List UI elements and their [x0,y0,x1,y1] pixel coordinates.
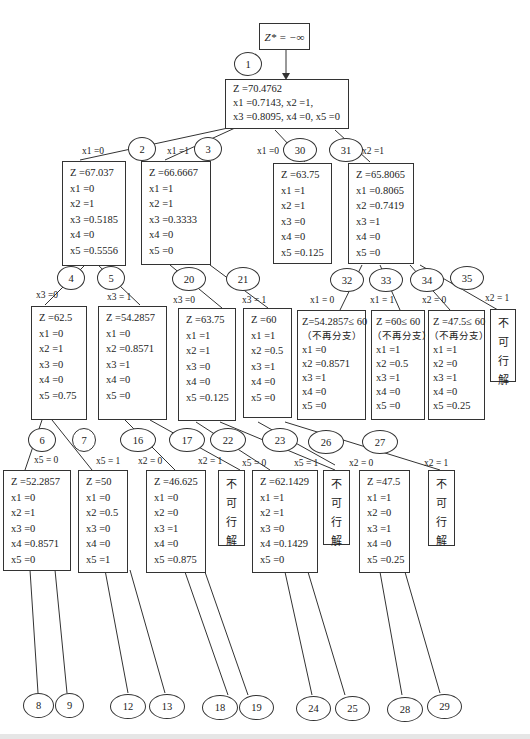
subproblem-box-16: Z =46.625 x1 =0 x2 =0 x3 =1 x4 =0 x5 =0.… [146,470,206,573]
node-30: 30 [283,138,317,162]
box-line: x2 =1 [39,341,86,357]
node-label: 21 [238,274,249,285]
box-line: Z =62.5 [39,310,86,326]
edge-label-6: x5 = 0 [34,455,58,465]
box-line: x5 =0.125 [281,245,331,261]
box-line: x2 =0.5 [251,343,291,359]
edge-label-23: x5 = 1 [294,458,318,468]
box-line: x5 =0.75 [39,388,86,404]
subproblem-box-30: Z =63.75 x1 =1 x2 =1 x3 =0 x4 =0 x5 =0.1… [273,163,332,264]
node-27: 27 [362,430,398,454]
box-line: x5 =0 [260,552,317,568]
node-label: 5 [108,273,113,284]
box-line: x3 =1 [251,359,291,375]
edge-label-20: x3 =0 [173,295,195,305]
box-line: x4 =0 [281,229,331,245]
box-line: x4 =0 [302,385,365,399]
subproblem-box-7: Z =50 x1 =0 x2 =0.5 x3 =0 x4 =0 x5 =1 [78,470,128,573]
box-line: x1 =0 [39,326,86,342]
box-line: x5 =0 [106,388,166,404]
box-line: Z =63.75 [281,167,331,183]
edge-label-34: x2 = 0 [422,295,446,305]
box-line: x4 =0 [39,372,86,388]
box-line: Z =63.75 [186,312,235,328]
box-line: x4 =0 [356,229,413,245]
node-label: 35 [462,273,473,284]
subproblem-box-26: Z =47.5 x1 =1 x2 =0 x3 =1 x4 =0 x5 =0.25 [359,470,410,573]
edge-label-5: x3 = 1 [107,292,131,302]
node-label: 4 [68,273,73,284]
root-line: x1 =0.7143, x2 =1, [233,96,348,110]
node-label: 20 [184,274,195,285]
box-line: x3 =0 [86,521,127,537]
infeasible-char: 解 [429,532,454,551]
box-line: x3 =0.3333 [149,212,210,228]
infeasible-char: 不 [429,475,454,494]
infeasible-char: 可 [429,494,454,513]
node-24: 24 [296,696,331,721]
edge-label-27: x2 = 1 [424,458,448,468]
box-line: x4 =0 [106,372,166,388]
box-line: x2 =0 [154,505,205,521]
box-line: x4 =0.1429 [260,536,317,552]
node-2: 2 [128,137,156,161]
subproblem-box-34: Z =47.5≤ 60 （不再分支） x1 =1 x2 =0 x3 =1 x4 … [428,310,485,420]
box-line: x3 =1 [356,214,413,230]
edge-label-21: x3 = 1 [242,295,266,305]
infeasible-char: 可 [324,494,349,513]
box-line: x2 =0.8571 [106,341,166,357]
box-line: Z =47.5 [367,474,409,490]
infeasible-char: 解 [219,532,244,551]
box-line: x5 =0 [149,243,210,259]
box-line: x4 =0 [251,374,291,390]
incumbent-value: Z* = −∞ [265,31,305,43]
box-line: x1 =0 [106,326,166,342]
box-line: Z =52.2857 [11,474,70,490]
box-line: x3 =1 [367,521,409,537]
node-label: 12 [123,701,134,712]
node-label: 1 [245,59,250,70]
box-line: x1 =0 [11,490,70,506]
infeasible-char: 不 [219,475,244,494]
node-34: 34 [410,268,444,292]
box-line: x4 =0 [86,536,127,552]
box-line: x2 =1 [149,196,210,212]
edge-label-22: x5 = 0 [242,458,266,468]
branch-and-bound-diagram: Z* = −∞ Z =70.4762 x1 =0.7143, x2 =1, x3… [0,0,530,739]
node-label: 30 [295,145,306,156]
edge-label-7: x5 = 1 [96,456,120,466]
box-line: x4 =0 [433,385,484,399]
node-1: 1 [234,52,262,76]
box-line: x1 =1 [149,181,210,197]
root-line: Z =70.4762 [233,82,348,96]
box-line: x2 =0.7419 [356,198,413,214]
root-box: Z =70.4762 x1 =0.7143, x2 =1, x3 =0.8095… [225,79,349,129]
node-13: 13 [149,694,185,719]
box-line: x5 =0.25 [433,399,484,413]
node-label: 26 [321,437,332,448]
node-label: 28 [400,704,411,715]
box-line: Z =62.1429 [260,474,317,490]
box-line: x5 =0 [376,399,424,413]
infeasible-char: 行 [324,513,349,532]
edge-label-2: x1 =0 [82,146,104,156]
node-label: 32 [342,275,353,286]
box-line: x2 =1 [70,196,125,212]
box-line: （不再分支） [302,329,365,343]
node-5: 5 [97,266,125,290]
box-line: x3 =0 [39,357,86,373]
node-label: 24 [308,703,319,714]
node-label: 6 [39,435,44,446]
box-line: x4 =0 [367,536,409,552]
node-28: 28 [387,697,423,722]
node-label: 8 [36,700,41,711]
node-label: 22 [223,435,234,446]
box-line: Z =47.5≤ 60 [433,315,484,329]
edge-label-17: x2 = 1 [198,456,222,466]
subproblem-box-21: Z =60 x1 =1 x2 =0.5 x3 =1 x4 =0 x5 =0 [243,308,292,418]
box-line: x2 =1 [186,343,235,359]
node-label: 16 [133,435,144,446]
node-35: 35 [450,266,484,290]
node-7: 7 [72,428,96,452]
box-line: Z =60 [251,312,291,328]
